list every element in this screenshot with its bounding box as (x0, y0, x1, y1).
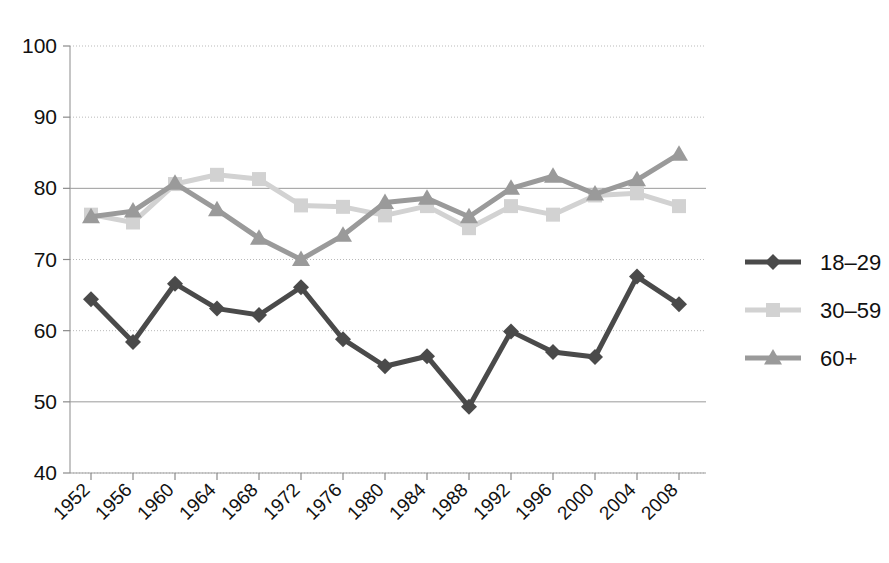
data-point-marker (210, 168, 224, 182)
data-series (82, 145, 688, 415)
series-60+ (82, 145, 688, 266)
legend-label: 60+ (820, 346, 857, 371)
x-tick-label: 1972 (259, 479, 304, 524)
data-point-marker (546, 208, 560, 222)
x-tick-label: 1984 (385, 479, 430, 524)
x-tick-label: 1988 (427, 479, 472, 524)
y-tick-label: 70 (34, 248, 57, 271)
series-line (91, 277, 679, 407)
y-tick-label: 40 (34, 461, 57, 484)
legend-marker-icon (765, 254, 781, 270)
legend-marker-icon (766, 303, 780, 317)
legend-item-30–59[interactable]: 30–59 (745, 298, 881, 323)
data-point-marker (252, 172, 266, 186)
x-tick-label: 1996 (511, 479, 556, 524)
data-point-marker (504, 199, 518, 213)
legend-label: 30–59 (820, 298, 881, 323)
legend-item-60+[interactable]: 60+ (745, 346, 857, 371)
x-tick-label: 1992 (469, 479, 514, 524)
chart-legend: 18–2930–5960+ (745, 250, 881, 371)
y-tick-label: 90 (34, 105, 57, 128)
data-point-marker (630, 186, 644, 200)
x-tick-label: 1952 (49, 479, 94, 524)
x-axis: 1952195619601964196819721976198019841988… (49, 473, 706, 524)
data-point-marker (462, 221, 476, 235)
x-tick-label: 1964 (175, 479, 220, 524)
legend-item-18–29[interactable]: 18–29 (745, 250, 881, 275)
chart-canvas: 405060708090100 195219561960196419681972… (0, 0, 889, 563)
series-18–29 (83, 269, 687, 415)
x-tick-label: 1980 (343, 479, 388, 524)
data-point-marker (126, 215, 140, 229)
x-tick-label: 1976 (301, 479, 346, 524)
y-tick-label: 50 (34, 390, 57, 413)
legend-label: 18–29 (820, 250, 881, 275)
line-chart-figure: 405060708090100 195219561960196419681972… (0, 0, 889, 563)
x-tick-label: 2004 (595, 479, 640, 524)
gridlines (70, 46, 706, 473)
x-tick-label: 2000 (553, 479, 598, 524)
data-point-marker (544, 167, 562, 182)
y-tick-label: 60 (34, 319, 57, 342)
x-tick-label: 2008 (637, 479, 682, 524)
data-point-marker (670, 145, 688, 160)
x-tick-label: 1960 (133, 479, 178, 524)
data-point-marker (672, 199, 686, 213)
x-tick-label: 1968 (217, 479, 262, 524)
data-point-marker (336, 200, 350, 214)
data-point-marker (294, 198, 308, 212)
y-tick-label: 100 (22, 34, 57, 57)
y-axis: 405060708090100 (22, 34, 70, 484)
data-point-marker (545, 344, 561, 360)
y-tick-label: 80 (34, 176, 57, 199)
x-tick-label: 1956 (91, 479, 136, 524)
data-point-marker (378, 208, 392, 222)
